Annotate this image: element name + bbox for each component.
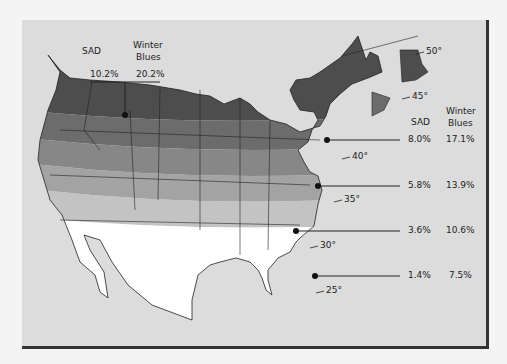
row-4-winter: 7.5% (449, 270, 472, 280)
latitude-35: 35° (344, 194, 360, 204)
row-2-winter: 13.9% (446, 180, 475, 190)
row-4-sad: 1.4% (408, 270, 431, 280)
row-2-sad: 5.8% (408, 180, 431, 190)
top-winter-header-2: Blues (136, 52, 161, 62)
latitude-50: 50° (426, 46, 442, 56)
latitude-40: 40° (352, 151, 368, 161)
latitude-45: 45° (412, 91, 428, 101)
top-winter-value: 20.2% (136, 69, 165, 79)
nova-scotia (372, 92, 390, 116)
right-winter-header-1: Winter (446, 106, 476, 116)
row-1-sad: 8.0% (408, 134, 431, 144)
newfoundland (400, 50, 428, 82)
row-3-winter: 10.6% (446, 225, 475, 235)
top-winter-header-1: Winter (133, 40, 163, 50)
row-3-sad: 3.6% (408, 225, 431, 235)
latitude-30: 30° (320, 240, 336, 250)
top-sad-header: SAD (82, 46, 101, 56)
latitude-25: 25° (326, 285, 342, 295)
right-sad-header: SAD (411, 117, 430, 127)
row-1-winter: 17.1% (446, 134, 475, 144)
top-sad-value: 10.2% (90, 69, 119, 79)
right-winter-header-2: Blues (448, 118, 473, 128)
